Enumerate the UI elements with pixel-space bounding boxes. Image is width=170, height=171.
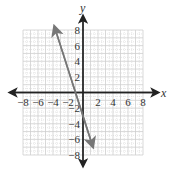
y-tick-label: −8	[68, 149, 80, 161]
y-tick-label: 4	[75, 55, 81, 67]
x-tick-label: 8	[140, 96, 146, 108]
y-tick-label: −6	[68, 133, 80, 145]
y-tick-label: 8	[75, 24, 81, 36]
x-axis-label: x	[160, 86, 167, 100]
x-tick-label: 6	[125, 96, 131, 108]
y-tick-label: 6	[75, 40, 81, 52]
y-tick-label: 2	[75, 71, 81, 83]
y-tick-label: −2	[68, 102, 80, 114]
x-tick-label: −6	[32, 96, 44, 108]
y-tick-label: −4	[68, 118, 80, 130]
coordinate-plane: −8−6−4−224688642−2−4−6−8 x y	[0, 0, 170, 171]
x-tick-label: 2	[95, 96, 101, 108]
x-tick-label: −8	[17, 96, 29, 108]
x-tick-label: −4	[47, 96, 59, 108]
y-axis-label: y	[79, 1, 86, 15]
x-tick-label: 4	[110, 96, 116, 108]
